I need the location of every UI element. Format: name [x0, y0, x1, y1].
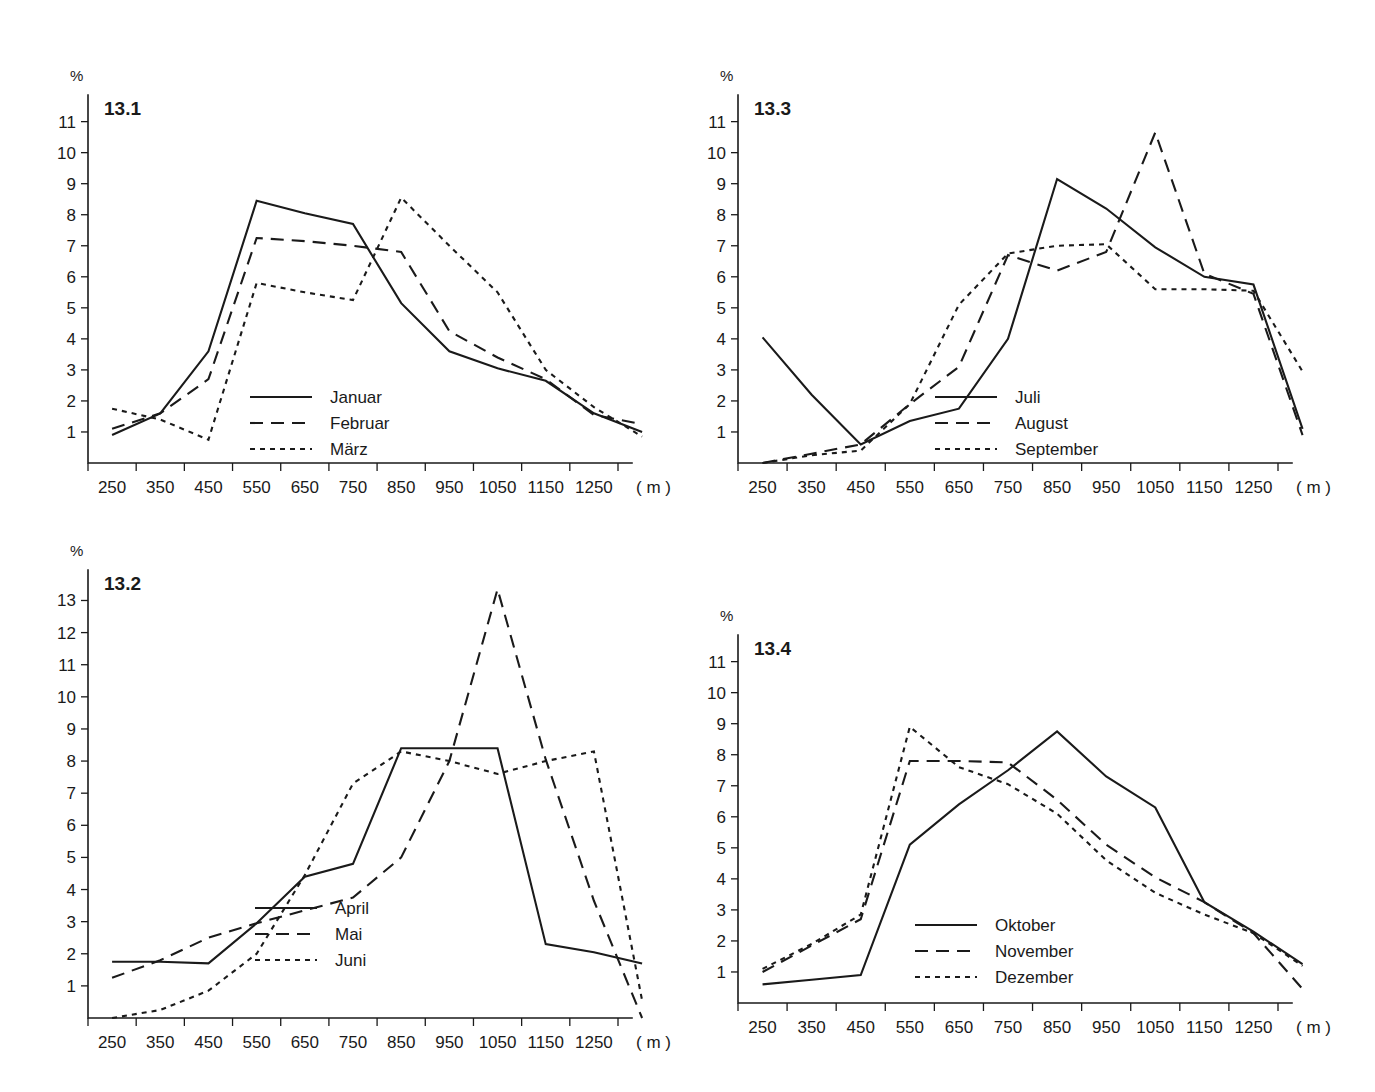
panel-id-label: 13.2	[104, 573, 141, 594]
x-axis-tick-label: 250	[748, 1018, 776, 1037]
y-axis-tick-label: 3	[67, 361, 76, 380]
y-axis-tick-label: 2	[717, 932, 726, 951]
x-axis-tick-label: 1150	[527, 1033, 564, 1052]
series-line-april	[112, 748, 642, 963]
x-axis-tick-label: 250	[98, 478, 126, 497]
x-axis-tick-label: 650	[945, 1018, 973, 1037]
x-axis-tick-label: 450	[194, 478, 222, 497]
y-axis-tick-label: 3	[717, 361, 726, 380]
x-axis-tick-label: 550	[896, 478, 924, 497]
y-axis-tick-label: 10	[57, 144, 76, 163]
y-axis-tick-label: 2	[717, 392, 726, 411]
y-axis-tick-label: 3	[717, 901, 726, 920]
y-axis-tick-label: 5	[717, 839, 726, 858]
y-axis-tick-label: 9	[67, 175, 76, 194]
y-axis-tick-label: 5	[67, 848, 76, 867]
y-axis-tick-label: 6	[67, 816, 76, 835]
y-axis-unit-label: %	[720, 607, 733, 624]
x-axis-tick-label: 1050	[1136, 1018, 1174, 1037]
x-axis-tick-label: 450	[847, 1018, 875, 1037]
x-axis-tick-label: 850	[387, 1033, 415, 1052]
y-axis-tick-label: 8	[67, 752, 76, 771]
chart-legend: JanuarFebruarMärz	[250, 388, 390, 459]
x-axis-unit-label: ( m )	[636, 1033, 671, 1052]
x-axis-tick-label: 750	[994, 478, 1022, 497]
x-axis-unit-label: ( m )	[1296, 478, 1331, 497]
x-axis-tick-label: 550	[242, 1033, 270, 1052]
chart-svg-13-3: %123456789101125035045055065075085095010…	[690, 45, 1350, 515]
chart-panel-13-3: %123456789101125035045055065075085095010…	[690, 45, 1350, 515]
legend-label-januar: Januar	[330, 388, 382, 407]
panel-id-label: 13.3	[754, 98, 791, 119]
legend-label-oktober: Oktober	[995, 916, 1056, 935]
x-axis-tick-label: 1050	[479, 478, 517, 497]
x-axis-tick-label: 350	[146, 478, 174, 497]
x-axis-tick-label: 350	[797, 1018, 825, 1037]
panel-id-label: 13.4	[754, 638, 791, 659]
x-axis-tick-label: 1150	[1186, 478, 1223, 497]
x-axis-tick-label: 750	[339, 478, 367, 497]
axis-lines	[738, 95, 1292, 463]
x-axis-tick-label: 950	[435, 478, 463, 497]
panel-id-label: 13.1	[104, 98, 141, 119]
x-axis-tick-label: 250	[98, 1033, 126, 1052]
legend-label-november: November	[995, 942, 1074, 961]
x-axis-tick-label: 1150	[527, 478, 564, 497]
y-axis-tick-label: 6	[717, 808, 726, 827]
y-axis-tick-label: 2	[67, 945, 76, 964]
legend-label-mai: Mai	[335, 925, 362, 944]
x-axis-tick-label: 550	[896, 1018, 924, 1037]
y-axis-tick-label: 11	[58, 656, 76, 675]
chart-panel-13-1: %123456789101125035045055065075085095010…	[40, 45, 690, 515]
chart-svg-13-1: %123456789101125035045055065075085095010…	[40, 45, 690, 515]
legend-label-februar: Februar	[330, 414, 390, 433]
y-axis-tick-label: 8	[717, 746, 726, 765]
series-line-juni	[112, 751, 642, 1018]
y-axis-tick-label: 10	[57, 688, 76, 707]
y-axis-tick-label: 6	[717, 268, 726, 287]
y-axis-tick-label: 3	[67, 913, 76, 932]
y-axis-tick-label: 12	[57, 624, 76, 643]
y-axis-tick-label: 1	[67, 977, 76, 996]
y-axis-tick-label: 5	[67, 299, 76, 318]
x-axis-tick-label: 750	[994, 1018, 1022, 1037]
legend-label-september: September	[1015, 440, 1098, 459]
x-axis-tick-label: 1050	[479, 1033, 517, 1052]
x-axis-tick-label: 950	[1092, 1018, 1120, 1037]
y-axis-unit-label: %	[70, 542, 83, 559]
legend-label-juni: Juni	[335, 951, 366, 970]
legend-label-m-rz: März	[330, 440, 368, 459]
x-axis-tick-label: 350	[797, 478, 825, 497]
legend-label-april: April	[335, 899, 369, 918]
y-axis-tick-label: 10	[707, 684, 726, 703]
chart-panel-13-4: %123456789101125035045055065075085095010…	[680, 585, 1350, 1055]
x-axis-tick-label: 250	[748, 478, 776, 497]
x-axis-tick-label: 650	[945, 478, 973, 497]
y-axis-tick-label: 4	[717, 330, 726, 349]
axis-lines	[88, 95, 632, 463]
y-axis-unit-label: %	[720, 67, 733, 84]
y-axis-tick-label: 1	[717, 423, 726, 442]
chart-legend: OktoberNovemberDezember	[915, 916, 1074, 987]
x-axis-tick-label: 1050	[1136, 478, 1174, 497]
y-axis-tick-label: 1	[67, 423, 76, 442]
legend-label-juli: Juli	[1015, 388, 1041, 407]
y-axis-tick-label: 8	[717, 206, 726, 225]
x-axis-tick-label: 850	[387, 478, 415, 497]
x-axis-tick-label: 450	[194, 1033, 222, 1052]
x-axis-tick-label: 950	[1092, 478, 1120, 497]
y-axis-tick-label: 7	[717, 777, 726, 796]
x-axis-unit-label: ( m )	[636, 478, 671, 497]
y-axis-tick-label: 5	[717, 299, 726, 318]
legend-label-august: August	[1015, 414, 1068, 433]
y-axis-tick-label: 2	[67, 392, 76, 411]
y-axis-tick-label: 7	[717, 237, 726, 256]
x-axis-unit-label: ( m )	[1296, 1018, 1331, 1037]
y-axis-tick-label: 11	[708, 113, 726, 132]
y-axis-tick-label: 11	[58, 113, 76, 132]
x-axis-tick-label: 750	[339, 1033, 367, 1052]
y-axis-tick-label: 9	[67, 720, 76, 739]
x-axis-tick-label: 1250	[1235, 478, 1273, 497]
x-axis-tick-label: 350	[146, 1033, 174, 1052]
y-axis-tick-label: 8	[67, 206, 76, 225]
